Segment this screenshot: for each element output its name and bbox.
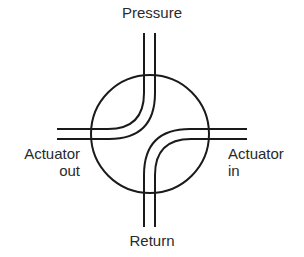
actuator-in-label: Actuator in [228, 145, 284, 179]
valve-diagram: Pressure Actuator out Actuator in Return [0, 0, 304, 257]
actuator-out-label-line2: out [12, 162, 80, 179]
actuator-in-label-line2: in [228, 162, 284, 179]
valve-body [91, 75, 209, 193]
actuator-in-label-line1: Actuator [228, 145, 284, 162]
valve-drawing [0, 0, 304, 257]
actuator-in-port [208, 129, 247, 139]
actuator-out-port [57, 129, 92, 139]
actuator-out-label-line1: Actuator [12, 145, 80, 162]
actuator-out-label: Actuator out [12, 145, 80, 179]
pressure-port [144, 33, 155, 76]
passage-actuator-in-to-return [144, 129, 208, 192]
pressure-label: Pressure [0, 4, 304, 21]
return-port [144, 192, 155, 227]
passage-pressure-to-actuator-out [92, 76, 155, 139]
return-label: Return [0, 232, 304, 249]
